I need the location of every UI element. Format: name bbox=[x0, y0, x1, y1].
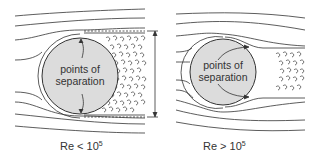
label-line-2: separation bbox=[48, 75, 112, 87]
caption-base: Re > 10 bbox=[203, 140, 242, 152]
caption-base: Re < 10 bbox=[60, 140, 99, 152]
right-eddies bbox=[276, 52, 304, 90]
right-circle-label: points of separation bbox=[191, 59, 255, 83]
label-line-1: points of bbox=[48, 63, 112, 75]
right-caption: Re > 105 bbox=[203, 140, 246, 152]
label-line-2: separation bbox=[191, 71, 255, 83]
left-circle-label: points of separation bbox=[48, 63, 112, 87]
wake-width-arrow bbox=[147, 31, 158, 117]
left-caption: Re < 105 bbox=[60, 140, 103, 152]
caption-exponent: 5 bbox=[99, 140, 103, 147]
label-line-1: points of bbox=[191, 59, 255, 71]
caption-exponent: 5 bbox=[242, 140, 246, 147]
